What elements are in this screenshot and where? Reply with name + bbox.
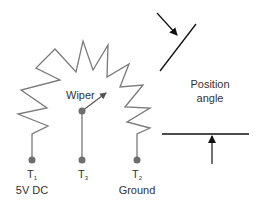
terminal-sub: 2 [139,175,142,181]
wiper-label: Wiper [66,89,95,101]
terminal-name: T [27,168,34,180]
terminal-t2-dot [134,157,141,164]
terminal-t1-label: T1 5V DC [16,168,48,196]
terminal-desc: Ground [119,184,156,196]
terminal-t3-label: T3 [78,168,88,184]
angle-arrow-top [157,13,177,35]
terminal-sub: 1 [34,175,37,181]
terminal-desc: 5V DC [16,184,48,196]
terminal-t2-label: T2 Ground [119,168,156,196]
wiper-dot [79,108,86,115]
terminal-t1-dot [29,157,36,164]
position-angle-label: Position angle [190,78,229,104]
terminal-sub: 3 [85,175,88,181]
angle-label: angle [190,92,229,104]
position-label: Position [190,78,229,90]
angle-line-diagonal [160,24,196,71]
terminal-name: T [78,168,85,180]
terminal-t3-dot [79,157,86,164]
